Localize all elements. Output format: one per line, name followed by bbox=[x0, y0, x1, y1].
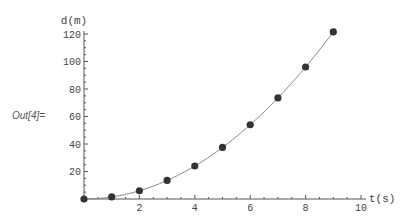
data-points bbox=[80, 28, 337, 202]
axes: 24681020406080100120 bbox=[63, 30, 367, 215]
data-point bbox=[247, 121, 254, 128]
y-axis-label: d(m) bbox=[61, 15, 87, 27]
y-tick-label: 80 bbox=[69, 85, 81, 96]
chart: 24681020406080100120 t(s) d(m) bbox=[0, 0, 406, 222]
x-tick-label: 2 bbox=[136, 203, 142, 214]
y-tick-label: 60 bbox=[69, 112, 81, 123]
x-tick-label: 4 bbox=[192, 203, 198, 214]
x-axis-label: t(s) bbox=[369, 193, 395, 205]
y-tick-label: 40 bbox=[69, 140, 81, 151]
data-point bbox=[108, 193, 115, 200]
data-point bbox=[191, 162, 198, 169]
data-point bbox=[80, 195, 87, 202]
data-point bbox=[302, 63, 309, 70]
y-tick-label: 120 bbox=[63, 30, 81, 41]
data-point bbox=[164, 177, 171, 184]
data-point bbox=[136, 187, 143, 194]
y-tick-label: 20 bbox=[69, 167, 81, 178]
data-point bbox=[274, 94, 281, 101]
data-point bbox=[219, 144, 226, 151]
x-tick-label: 6 bbox=[247, 203, 253, 214]
x-tick-label: 10 bbox=[355, 203, 367, 214]
x-tick-label: 8 bbox=[303, 203, 309, 214]
y-tick-label: 100 bbox=[63, 57, 81, 68]
data-point bbox=[330, 28, 337, 35]
fit-curve bbox=[84, 28, 336, 199]
